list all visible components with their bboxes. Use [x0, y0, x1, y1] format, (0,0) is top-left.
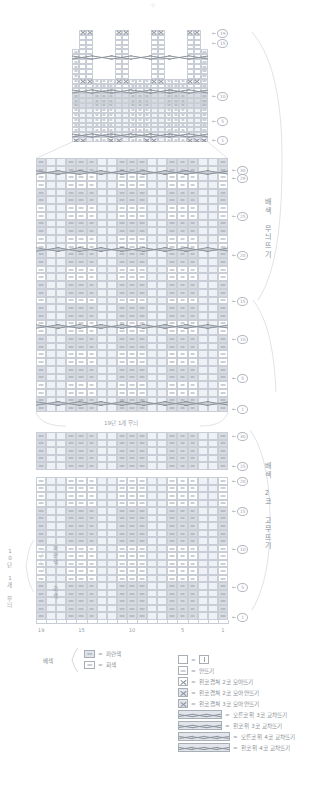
chart-cell: [36, 327, 46, 335]
purl-mark: [190, 392, 195, 393]
legend-symbol-cable-r3: [178, 710, 222, 719]
purl-mark: [39, 392, 44, 393]
chart-cell: [177, 243, 187, 251]
chart-cell: [76, 366, 86, 374]
purl-mark: [89, 277, 94, 278]
chart-cell: [198, 530, 208, 538]
row-number: 25: [237, 212, 248, 221]
chart-cell: [107, 597, 117, 605]
chart-cell: [167, 220, 177, 228]
purl-mark: [220, 223, 225, 224]
chart-cell: [36, 447, 46, 455]
purl-mark: [170, 601, 175, 602]
purl-mark: [119, 177, 124, 178]
chart-cell: [167, 440, 177, 448]
purl-mark: [180, 503, 185, 504]
purl-mark: [130, 435, 135, 436]
chart-cell: [137, 507, 147, 515]
chart-cell: [127, 447, 137, 455]
chart-cell: [188, 537, 198, 545]
chart-cell: [208, 575, 218, 583]
purl-mark: [131, 95, 134, 96]
purl-mark: [103, 85, 106, 86]
chart-cell: [137, 343, 147, 351]
purl-mark: [131, 110, 134, 111]
chart-cell: [127, 522, 137, 530]
purl-mark: [79, 308, 84, 309]
chart-cell: [107, 582, 117, 590]
purl-mark: [130, 541, 135, 542]
purl-mark: [131, 139, 134, 140]
chart-cell: [147, 212, 157, 220]
chart-cell: [198, 297, 208, 305]
chart-cell: [97, 605, 107, 613]
purl-mark: [131, 85, 134, 86]
chart-cell: [137, 552, 147, 560]
tick-arrow: ←: [212, 119, 216, 124]
purl-mark: [220, 608, 225, 609]
chart-cell: [218, 477, 228, 485]
equals-sign: =: [233, 745, 238, 751]
chart-cell: [208, 597, 218, 605]
knit-together-mark: [72, 137, 79, 142]
row-tick-label: ←1: [232, 405, 248, 414]
purl-mark: [190, 361, 195, 362]
chart-cell: [46, 327, 56, 335]
purl-mark: [138, 134, 141, 135]
chart-cell: [208, 447, 218, 455]
purl-mark: [69, 200, 74, 201]
chart-cell: [117, 312, 127, 320]
chart-cell: [157, 404, 167, 412]
chart-cell: [136, 137, 143, 142]
purl-mark: [130, 510, 135, 511]
chart-cell: [157, 440, 167, 448]
chart-cell: [167, 358, 177, 366]
cable-line: [204, 744, 217, 751]
chart-cell: [188, 266, 198, 274]
purl-mark: [89, 231, 94, 232]
chart-cell: [36, 366, 46, 374]
chart-cell: [157, 227, 167, 235]
chart-cell: [97, 220, 107, 228]
chart-cell: [137, 297, 147, 305]
chart-cell: [46, 335, 56, 343]
purl-mark: [180, 369, 185, 370]
chart-cell: [97, 189, 107, 197]
tick-arrow: ←: [232, 509, 236, 514]
chart-cell: [76, 258, 86, 266]
purl-mark: [190, 518, 195, 519]
purl-mark: [39, 480, 44, 481]
row-tick-label: ←20: [232, 477, 248, 486]
chart-cell: [97, 432, 107, 440]
purl-mark: [79, 323, 84, 324]
purl-mark: [39, 192, 44, 193]
purl-mark: [180, 443, 185, 444]
column-tick-mark: [177, 620, 187, 624]
chart-cell: [97, 560, 107, 568]
chart-cell: [137, 522, 147, 530]
purl-mark: [89, 323, 94, 324]
chart-cell: [167, 235, 177, 243]
chart-cell: [36, 462, 46, 470]
chart-cell: [117, 212, 127, 220]
purl-mark: [140, 601, 145, 602]
purl-mark: [119, 246, 124, 247]
purl-mark: [190, 525, 195, 526]
purl-mark: [180, 548, 185, 549]
purl-mark: [140, 443, 145, 444]
purl-mark: [130, 261, 135, 262]
purl-mark: [119, 354, 124, 355]
chart-cell: [87, 537, 97, 545]
cable-line: [192, 744, 205, 751]
chart-cell: [167, 485, 177, 493]
chart-cell: [107, 358, 117, 366]
purl-mark: [220, 361, 225, 362]
chart-cell: [157, 552, 167, 560]
chart-cell: [87, 220, 97, 228]
purl-mark: [96, 90, 99, 91]
chart-cell: [167, 597, 177, 605]
purl-mark: [119, 284, 124, 285]
chart-cell: [76, 204, 86, 212]
chart-cell: [157, 590, 167, 598]
purl-mark: [79, 450, 84, 451]
